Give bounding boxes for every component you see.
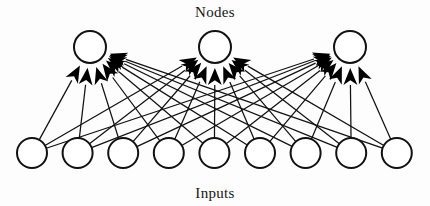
node-circle — [199, 31, 231, 63]
input-circle — [199, 138, 229, 168]
nodes-label: Nodes — [195, 4, 235, 20]
input-layer-group — [17, 138, 412, 168]
input-circle — [154, 138, 184, 168]
edge-line — [350, 85, 351, 138]
node-circle — [334, 31, 366, 63]
input-circle — [291, 138, 321, 168]
input-circle — [17, 138, 47, 168]
network-diagram: Nodes Inputs — [0, 0, 430, 206]
node-circle — [74, 31, 106, 63]
inputs-label: Inputs — [195, 185, 234, 201]
input-circle — [336, 138, 366, 168]
network-diagram-canvas: Nodes Inputs — [0, 0, 430, 206]
input-circle — [382, 138, 412, 168]
input-circle — [63, 138, 93, 168]
input-circle — [245, 138, 275, 168]
input-circle — [108, 138, 138, 168]
